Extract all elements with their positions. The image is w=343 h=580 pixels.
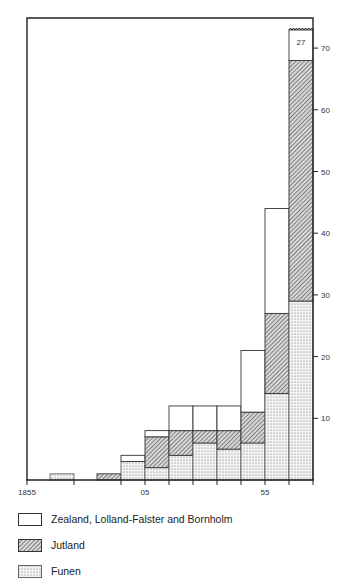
funen-bar xyxy=(121,461,145,480)
legend-item-funen: Funen xyxy=(18,558,233,580)
zealand-bar xyxy=(217,406,241,431)
jutland-bar xyxy=(289,60,313,301)
jutland-bar xyxy=(265,313,289,393)
funen-bar xyxy=(241,443,265,480)
zealand-bar xyxy=(145,431,169,437)
jutland-bar xyxy=(217,431,241,450)
funen-bar xyxy=(169,455,193,480)
legend-label: Zealand, Lolland-Falster and Bornholm xyxy=(51,513,233,525)
blank-swatch-icon xyxy=(18,513,42,526)
funen-bar xyxy=(289,301,313,480)
y-tick-label: 10 xyxy=(321,414,330,423)
funen-bar xyxy=(217,449,241,480)
funen-bar xyxy=(265,394,289,480)
zealand-bar xyxy=(121,455,145,461)
broken-bar-value: 27 xyxy=(297,38,306,47)
dotted-swatch-icon xyxy=(18,565,42,578)
y-tick-label: 60 xyxy=(321,106,330,115)
zealand-bar xyxy=(241,350,265,412)
jutland-bar xyxy=(145,437,169,468)
legend-item-zealand: Zealand, Lolland-Falster and Bornholm xyxy=(18,506,233,532)
histogram-chart: 27 1855055510203040506070 xyxy=(0,0,343,500)
x-tick-label: 1855 xyxy=(18,488,36,497)
jutland-bar xyxy=(169,431,193,456)
funen-bar xyxy=(50,474,74,480)
legend-label: Funen xyxy=(51,565,81,577)
funen-bar xyxy=(145,468,169,480)
y-tick-label: 30 xyxy=(321,291,330,300)
legend-label: Jutland xyxy=(51,539,85,551)
y-tick-label: 70 xyxy=(321,44,330,53)
jutland-bar xyxy=(193,431,217,443)
x-tick-label: 55 xyxy=(261,488,270,497)
jutland-bar xyxy=(241,412,265,443)
zealand-bar xyxy=(193,406,217,431)
bars-group: 27 xyxy=(50,28,313,480)
funen-bar xyxy=(193,443,217,480)
legend: Zealand, Lolland-Falster and Bornholm Ju… xyxy=(18,506,233,580)
y-tick-label: 40 xyxy=(321,229,330,238)
y-tick-label: 20 xyxy=(321,353,330,362)
x-tick-label: 05 xyxy=(141,488,150,497)
zealand-bar xyxy=(265,209,289,314)
hatched-swatch-icon xyxy=(18,539,42,552)
jutland-bar xyxy=(97,474,121,480)
zealand-bar xyxy=(169,406,193,431)
legend-item-jutland: Jutland xyxy=(18,532,233,558)
axis-break-icon xyxy=(289,28,313,30)
y-tick-label: 50 xyxy=(321,168,330,177)
